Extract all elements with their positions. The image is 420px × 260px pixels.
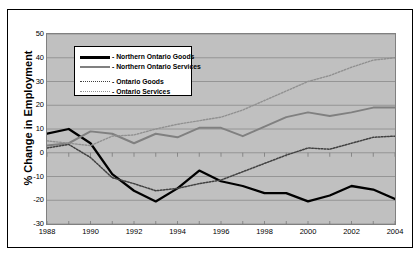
series-line-northern-ontario-services bbox=[47, 108, 395, 146]
y-tick-label: -10 bbox=[18, 173, 44, 181]
x-tick-label: 1994 bbox=[158, 227, 198, 236]
legend-label-ontario-services: - Ontario Services bbox=[112, 87, 170, 96]
legend-item-northern-ontario-services: - Northern Ontario Services bbox=[80, 61, 187, 71]
x-tick-label: 2004 bbox=[375, 227, 415, 236]
legend-label-ontario-goods: - Ontario Goods bbox=[112, 77, 164, 86]
x-tick-label: 1992 bbox=[114, 227, 154, 236]
y-tick-label: 10 bbox=[18, 125, 44, 133]
legend-swatch-northern-ontario-goods bbox=[80, 52, 110, 60]
x-tick-label: 1998 bbox=[245, 227, 285, 236]
y-tick-label: 20 bbox=[18, 101, 44, 109]
legend-swatch-ontario-services bbox=[80, 87, 110, 95]
legend-label-northern-ontario-services: - Northern Ontario Services bbox=[112, 62, 201, 71]
x-tick-label: 2000 bbox=[288, 227, 328, 236]
legend-label-northern-ontario-goods: - Northern Ontario Goods bbox=[112, 52, 194, 61]
x-tick-label: 1996 bbox=[201, 227, 241, 236]
x-tick-label: 1988 bbox=[27, 227, 67, 236]
legend-swatch-ontario-goods bbox=[80, 77, 110, 85]
y-tick-label: 0 bbox=[18, 149, 44, 157]
x-tick-label: 1990 bbox=[71, 227, 111, 236]
chart-figure: % Change in Employment -30-20-1001020304… bbox=[0, 0, 420, 260]
legend-item-northern-ontario-goods: - Northern Ontario Goods bbox=[80, 51, 187, 61]
y-tick-label: 30 bbox=[18, 78, 44, 86]
y-tick-label: -20 bbox=[18, 196, 44, 204]
legend-item-ontario-goods: - Ontario Goods bbox=[80, 76, 187, 86]
y-axis-tick-labels: -30-20-1001020304050 bbox=[12, 33, 44, 225]
x-tick-label: 2002 bbox=[332, 227, 372, 236]
chart-legend: - Northern Ontario Goods - Northern Onta… bbox=[74, 46, 192, 96]
legend-swatch-northern-ontario-services bbox=[80, 62, 110, 70]
y-tick-label: 50 bbox=[18, 30, 44, 38]
y-tick-label: 40 bbox=[18, 54, 44, 62]
legend-item-ontario-services: - Ontario Services bbox=[80, 86, 187, 96]
x-axis-tick-labels: 198819901992199419961998200020022004 bbox=[46, 227, 396, 241]
series-line-ontario-goods bbox=[47, 136, 395, 191]
